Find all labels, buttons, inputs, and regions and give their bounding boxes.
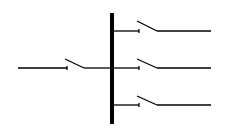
outgoing-feeder-3 [114,96,211,107]
incoming-feeder [18,59,112,70]
feeder-switch-blade [137,59,157,68]
busbar-schematic [0,0,225,133]
outgoing-feeder-1 [114,21,211,33]
feeder-switch-blade [137,96,157,105]
busbar [110,13,114,124]
feeder-switch-blade [137,21,157,31]
outgoing-feeder-2 [114,59,211,70]
incoming-switch-blade [65,59,84,68]
